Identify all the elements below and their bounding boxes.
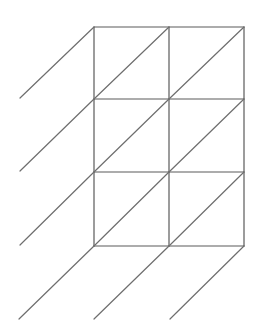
diagonal-line xyxy=(170,246,244,319)
diagonal-line xyxy=(94,172,169,246)
diagonal-line xyxy=(169,27,244,99)
diagonal-line xyxy=(20,172,94,245)
diagonal-line xyxy=(94,246,169,319)
diagonal-line xyxy=(19,246,94,319)
lattice-grid-svg xyxy=(0,0,253,329)
grid-lines xyxy=(94,27,244,246)
diagonal-lines xyxy=(19,27,244,319)
diagonal-line xyxy=(169,99,244,172)
diagonal-line xyxy=(169,172,244,246)
diagonal-line xyxy=(20,99,94,171)
lattice-grid-diagram xyxy=(0,0,253,329)
diagonal-line xyxy=(20,27,94,98)
diagonal-line xyxy=(94,27,169,99)
diagonal-line xyxy=(94,99,169,172)
